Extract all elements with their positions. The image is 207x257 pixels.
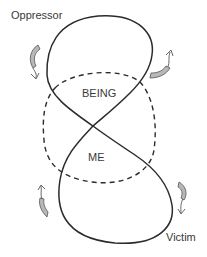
cycle-arrow-icon-bottom-left: [38, 185, 48, 217]
me-label: ME: [88, 152, 105, 163]
being-label: BEING: [82, 88, 116, 99]
cycle-arrow-icon-top-left: [30, 45, 40, 79]
cycle-arrow-icon-top-right: [150, 50, 173, 78]
victim-label: Victim: [166, 232, 196, 243]
oppressor-victim-diagram: [0, 0, 207, 257]
oppressor-label: Oppressor: [11, 10, 62, 21]
cycle-arrow-icon-bottom-right: [178, 182, 186, 214]
figure-eight-curve: [47, 16, 172, 244]
